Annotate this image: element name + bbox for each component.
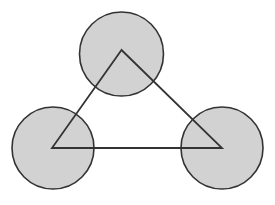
top-circle[interactable] [80, 12, 164, 96]
geometric-figure-canvas: Three overlapping circles with inscribed… [0, 0, 275, 205]
